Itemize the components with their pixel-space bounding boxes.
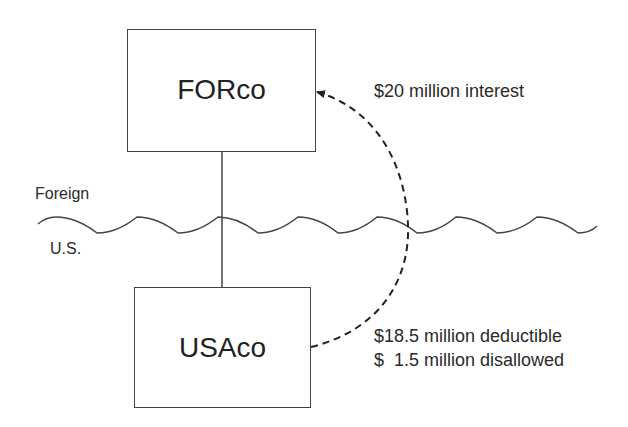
disallowed-amount-label: $ 1.5 million disallowed xyxy=(374,350,564,371)
border-wave xyxy=(38,217,597,233)
foreign-jurisdiction-label: Foreign xyxy=(35,185,89,203)
usaco-label: USAco xyxy=(179,332,266,364)
usaco-entity-box: USAco xyxy=(134,287,311,408)
us-jurisdiction-label: U.S. xyxy=(50,240,81,258)
interest-amount-label: $20 million interest xyxy=(374,81,524,102)
forco-entity-box: FORco xyxy=(127,29,316,152)
deductible-amount-label: $18.5 million deductible xyxy=(374,326,562,347)
forco-label: FORco xyxy=(177,74,266,106)
